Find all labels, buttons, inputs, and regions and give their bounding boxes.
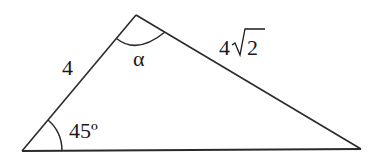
label-side-right-coef: 4	[219, 35, 230, 60]
side-base	[22, 149, 361, 151]
label-side-right-radicand: 2	[247, 35, 258, 60]
angle-arc-left	[48, 120, 62, 151]
label-side-left: 4	[62, 55, 73, 80]
label-side-right: 4 2	[219, 29, 265, 60]
label-angle-apex: α	[133, 46, 145, 71]
angle-arc-apex	[117, 32, 166, 45]
triangle-diagram: 4 α 45º 4 2	[0, 0, 376, 159]
label-angle-left: 45º	[69, 118, 98, 143]
